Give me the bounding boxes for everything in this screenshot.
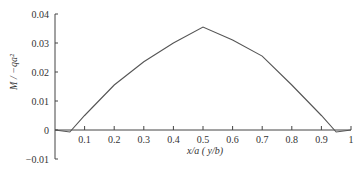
y-tick-label: 0.01	[32, 96, 50, 107]
y-tick-label: 0.02	[32, 67, 50, 78]
x-tick-label: 0.7	[256, 134, 269, 145]
x-tick-label: 0.9	[315, 134, 328, 145]
x-tick-label: 1	[349, 134, 354, 145]
y-tick-label: −0.01	[26, 154, 49, 165]
x-tick-label: 0.8	[286, 134, 299, 145]
y-tick-label: 0.04	[32, 9, 50, 20]
series-line	[55, 27, 351, 132]
y-tick-label: 0	[44, 125, 49, 136]
x-axis-title: x/a ( y/b)	[186, 145, 224, 157]
x-tick-label: 0.6	[226, 134, 239, 145]
x-tick-label: 0.3	[138, 134, 151, 145]
x-tick-label: 0.5	[197, 134, 210, 145]
data-series	[55, 27, 351, 132]
y-axis: 0.040.030.020.010−0.01	[26, 9, 58, 165]
x-axis: 0.10.20.30.40.50.60.70.80.91	[55, 126, 354, 145]
moment-chart: 0.040.030.020.010−0.01 0.10.20.30.40.50.…	[0, 0, 364, 170]
y-tick-label: 0.03	[32, 38, 50, 49]
x-tick-label: 0.4	[167, 134, 180, 145]
x-tick-label: 0.1	[78, 134, 91, 145]
y-axis-title: M / −qa²	[8, 53, 19, 91]
x-tick-label: 0.2	[108, 134, 121, 145]
